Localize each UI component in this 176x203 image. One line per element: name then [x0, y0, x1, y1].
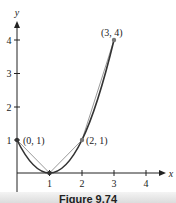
x-tick-label-3: 3: [112, 178, 117, 189]
y-tick-label-3: 3: [7, 68, 12, 79]
point-0-1: [15, 138, 19, 142]
x-axis-arrow-icon: [159, 170, 166, 176]
parabola-curve: [17, 40, 114, 173]
point-label-3-4: (3, 4): [101, 27, 123, 39]
y-tick-label-4: 4: [7, 35, 12, 46]
y-axis-arrow-icon: [14, 21, 20, 28]
point-label-0-1: (0, 1): [23, 135, 45, 147]
x-tick-label-1: 1: [47, 178, 52, 189]
x-tick-label-4: 4: [144, 178, 149, 189]
x-axis-label: x: [168, 168, 174, 179]
point-2-1: [80, 138, 84, 142]
y-tick-label-1: 1: [7, 135, 12, 146]
point-1-0: [47, 171, 51, 175]
point-label-2-1: (2, 1): [86, 135, 108, 147]
x-tick-label-2: 2: [80, 178, 85, 189]
secant-polyline: [17, 40, 114, 173]
point-3-4: [112, 38, 116, 42]
y-axis-label: y: [14, 7, 20, 18]
figure-caption: Figure 9.74: [0, 192, 176, 203]
y-tick-label-2: 2: [7, 102, 12, 113]
figure-plot: 1 2 3 4 1 2 3 4 x y (0, 1) (2, 1) (3, 4): [0, 0, 176, 203]
